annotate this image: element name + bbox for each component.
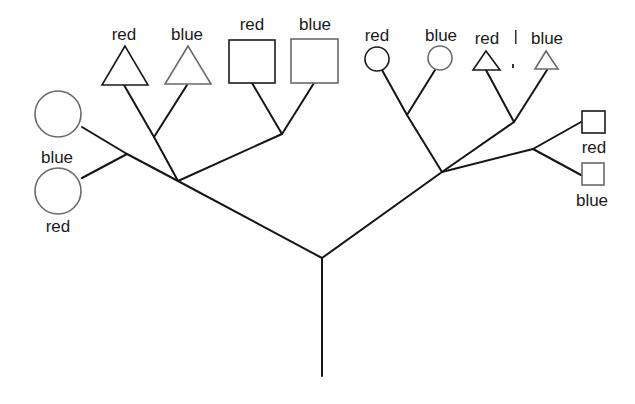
right-leaves: red blue red blue red blue: [365, 26, 608, 210]
leaf-label-l4: blue: [171, 25, 203, 44]
right-circles-to-red: [382, 70, 407, 115]
triangle-leaf-red-large: [102, 46, 148, 85]
leaf-label-l11: red: [582, 138, 607, 157]
left-to-squares-branch: [178, 134, 282, 181]
left-triangles-to-blue: [154, 85, 187, 137]
square-leaf-red-large: [229, 40, 275, 83]
leaf-label-l7: red: [365, 26, 390, 45]
circle-leaf-red-small: [365, 47, 389, 71]
leaf-label-l10: blue: [531, 29, 563, 48]
right-to-triangles-branch: [442, 122, 514, 172]
leaf-label-l1: blue: [41, 148, 73, 167]
tree-edges: [82, 70, 581, 376]
right-to-circles-branch: [407, 115, 442, 172]
circle-leaf-blue-small: [428, 46, 452, 70]
square-leaf-red-small: [582, 111, 605, 133]
left-squares-to-blue: [282, 83, 314, 134]
right-squares-to-blue: [533, 149, 581, 175]
left-circles-to-red: [82, 154, 127, 178]
leaf-label-l6: blue: [299, 15, 331, 34]
right-main-branch: [322, 172, 442, 258]
left-squares-to-red: [252, 83, 282, 134]
scan-artifacts: [512, 30, 517, 68]
circle-leaf-red-large: [35, 168, 81, 214]
speck-mark: [512, 64, 514, 68]
triangle-leaf-blue-small: [535, 51, 558, 69]
leaf-label-l2: red: [46, 217, 71, 236]
right-triangles-to-red: [486, 70, 514, 122]
left-leaves: blue red red blue red blue: [35, 15, 338, 236]
triangle-leaf-red-small: [473, 51, 500, 70]
leaf-label-l3: red: [112, 25, 137, 44]
left-circles-to-blue: [82, 127, 127, 154]
square-leaf-blue-large: [291, 39, 338, 83]
left-triangles-to-red: [124, 85, 154, 137]
square-leaf-blue-small: [582, 163, 604, 185]
circle-leaf-blue-large: [35, 91, 81, 137]
leaf-label-l12: blue: [576, 191, 608, 210]
right-squares-to-red: [533, 122, 581, 149]
speck-mark: [515, 30, 517, 44]
leaf-label-l5: red: [240, 15, 265, 34]
right-circles-to-blue: [407, 70, 435, 115]
left-main-branch: [178, 181, 322, 258]
right-to-squares-branch: [442, 149, 533, 172]
right-triangles-to-blue: [514, 70, 547, 122]
leaf-label-l9: red: [475, 29, 500, 48]
tree-diagram: blue red red blue red blue red blue red …: [0, 0, 635, 404]
triangle-leaf-blue-large: [165, 46, 211, 84]
leaf-label-l8: blue: [425, 26, 457, 45]
